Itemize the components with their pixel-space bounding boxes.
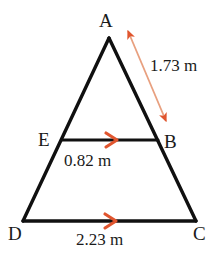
segment-AD [23,38,109,221]
vertex-label-b: B [164,132,177,151]
vertex-label-e: E [38,130,50,149]
triangle-diagram-svg [0,0,222,257]
vertex-label-a: A [99,11,113,30]
vertex-label-d: D [8,224,22,243]
vertex-label-c: C [193,224,206,243]
measurement-label-ab: 1.73 m [150,57,197,74]
measure-arrow-ab-icon [128,31,166,121]
measurement-label-eb: 0.82 m [64,152,111,169]
geometry-figure: A B C D E 1.73 m 0.82 m 2.23 m [0,0,222,257]
measurement-label-dc: 2.23 m [76,231,123,248]
